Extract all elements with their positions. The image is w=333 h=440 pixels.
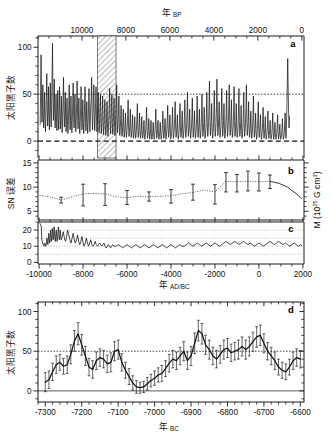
bottom-axis-tick-label-d: -7300 — [35, 408, 56, 417]
figure-container: 1000080006000400020000 050100 51015 -100… — [0, 0, 333, 440]
bottom-axis-tick-label-d: -7000 — [144, 408, 165, 417]
top-axis-tick-label: 2000 — [249, 26, 268, 35]
panel-d-y-tick-label: 50 — [22, 347, 32, 356]
panel-b-y-tick-label: 5 — [27, 207, 32, 216]
top-axis-tick-label: 10000 — [71, 26, 94, 35]
y-axis-label-right-magnetic-moment: M (1025 G cm3) — [312, 171, 322, 228]
bottom-axis-tick-label-abc: -10000 — [26, 270, 52, 279]
bottom-axis-tick-label-abc: 2000 — [294, 270, 313, 279]
top-axis-title-sub: BP — [173, 11, 182, 18]
bottom-axis-tick-label-d: -7100 — [108, 408, 129, 417]
y-axis-label-panel-a: 太阳黑子数 — [5, 75, 16, 120]
panel-label-d: d — [288, 304, 294, 315]
top-axis-year-bp: 1000080006000400020000 — [38, 26, 305, 41]
bottom-axis-tick-label-d: -6600 — [290, 408, 311, 417]
panel-d-zoom-sunspot: -7300-7200-7100-7000-6900-6800-6700-6600… — [18, 302, 311, 417]
panel-label-c: c — [288, 223, 293, 234]
panel-a-sunspot-number: 050100 — [18, 36, 304, 158]
panel-b-y-tick-label: 10 — [22, 183, 32, 192]
svg-text:M (1025 G cm3): M (1025 G cm3) — [312, 171, 322, 228]
top-axis-title: 年 — [162, 7, 171, 18]
bottom-axis-tick-label-abc: -4000 — [161, 270, 182, 279]
bottom-axis-tick-label-d: -6800 — [217, 408, 238, 417]
bottom-axis-tick-label-abc: -8000 — [73, 270, 94, 279]
panel-a-y-tick-label: 100 — [18, 43, 32, 52]
panel-c-y-tick-label: 0 — [27, 258, 32, 267]
top-axis-tick-label: 8000 — [117, 26, 136, 35]
bottom-axis-tick-label-d: -7200 — [71, 408, 92, 417]
panel-label-a: a — [290, 38, 296, 49]
panel-b-solid-tail — [270, 181, 302, 198]
y-axis-label-panel-d: 太阳黑子数 — [5, 330, 16, 375]
panel-a-sunspot-series — [40, 44, 289, 140]
panel-b-sn-error: 51015 — [22, 155, 308, 220]
m-label-head: M (10 — [312, 206, 322, 228]
panel-c-count-series — [40, 224, 302, 248]
bottom-axis-tick-label-abc: 0 — [257, 270, 262, 279]
bottom-axis-tick-label-d: -6700 — [253, 408, 274, 417]
multi-panel-figure: 1000080006000400020000 050100 51015 -100… — [0, 0, 333, 440]
bottom-axis-tick-label-abc: -2000 — [204, 270, 225, 279]
panel-label-b: b — [288, 165, 294, 176]
panel-c-counts: -10000-8000-6000-4000-20000200001020 — [22, 217, 312, 279]
panel-b-y-tick-label: 15 — [22, 159, 32, 168]
bottom-axis-tick-label-abc: -6000 — [117, 270, 138, 279]
panel-a-y-tick-label: 0 — [27, 137, 32, 146]
panel-d-y-tick-label: 100 — [18, 308, 32, 317]
bottom-axis-title-abc: 年 — [159, 279, 168, 290]
bottom-axis-title-d-sub: BC — [170, 425, 179, 432]
m-label-tail: G cm — [312, 177, 322, 200]
top-axis-tick-label: 4000 — [205, 26, 224, 35]
bottom-axis-title-d: 年 — [159, 421, 168, 432]
panel-a-y-tick-label: 50 — [22, 90, 32, 99]
panel-d-sunspot-series — [45, 331, 300, 388]
y-axis-label-panel-b: SN 误差 — [5, 177, 16, 209]
panel-c-y-tick-label: 10 — [22, 242, 32, 251]
panel-b-dotted-connector — [40, 181, 270, 200]
bottom-axis-tick-label-d: -6900 — [181, 408, 202, 417]
panel-c-y-tick-label: 20 — [22, 226, 32, 235]
top-axis-tick-label: 0 — [300, 26, 305, 35]
m-label-close: ) — [312, 171, 322, 174]
bottom-axis-title-abc-sub: AD/BC — [170, 283, 190, 290]
panel-d-y-tick-label: 0 — [27, 387, 32, 396]
top-axis-tick-label: 6000 — [161, 26, 180, 35]
